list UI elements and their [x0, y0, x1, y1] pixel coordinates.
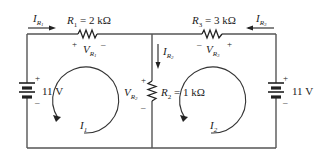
label-vr2: VR2 [124, 87, 138, 101]
r3-minus-sign: – [197, 40, 202, 49]
resistor-r2 [148, 81, 156, 101]
label-vr1: VR1 [83, 44, 97, 58]
battery-e2 [268, 83, 284, 97]
current-arrow-ir2 [156, 44, 161, 69]
r2-minus-sign: – [141, 103, 146, 112]
resistor-r3 [202, 30, 222, 38]
label-r3: R3 = 3 kΩ [192, 15, 236, 29]
r2-plus-sign: + [141, 76, 146, 85]
label-i2: I2 [210, 120, 217, 134]
r1-plus-sign: + [72, 40, 77, 49]
label-ir2: IR2 [163, 46, 173, 60]
label-e1: 11 V [42, 86, 63, 97]
label-ir1: IR1 [33, 13, 43, 27]
label-r2: R2 = 1 kΩ [161, 87, 205, 101]
e1-plus-sign: + [35, 74, 40, 83]
r3-plus-sign: + [227, 40, 232, 49]
e2-minus-sign: – [283, 98, 288, 107]
label-ir3: IR3 [256, 13, 266, 27]
resistor-r1 [78, 30, 97, 38]
label-vr3: VR3 [206, 44, 220, 58]
r1-minus-sign: – [101, 40, 106, 49]
e2-plus-sign: + [283, 74, 288, 83]
label-e2: 11 V [292, 86, 313, 97]
label-i1: I1 [80, 120, 87, 134]
e1-minus-sign: – [35, 98, 40, 107]
battery-e1 [19, 83, 35, 97]
label-r1: R1 = 2 kΩ [67, 15, 111, 29]
circuit-diagram [0, 0, 325, 158]
